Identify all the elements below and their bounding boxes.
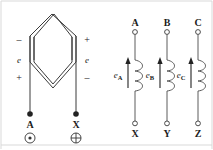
phase-a-top-terminal-label: A xyxy=(131,17,139,28)
phase-c-top-terminal-node xyxy=(196,30,201,35)
polarity-left-top: – xyxy=(16,34,23,45)
phase-b-emf-arrow-head xyxy=(157,57,162,64)
phase-b-bottom-terminal-node xyxy=(165,121,170,126)
phase-a-emf-subscript: A xyxy=(118,74,123,81)
coil-outer-conductor xyxy=(30,14,76,88)
phase-a-coil xyxy=(135,60,143,91)
phase-b-top-terminal-label: B xyxy=(164,17,171,28)
terminal-label-x: X xyxy=(72,119,80,130)
polarity-right-bottom: – xyxy=(84,72,91,83)
figure-root: – e + + e – A X A xyxy=(0,0,213,150)
polarity-left-bottom: + xyxy=(16,72,22,83)
emf-label-right: e xyxy=(85,55,89,65)
phase-winding-b: B Y eB xyxy=(146,17,175,139)
current-into-page-icon xyxy=(71,133,81,143)
phase-winding-c: C Z eC xyxy=(177,17,206,139)
phase-a-emf-label: eA xyxy=(114,70,123,81)
phase-a-bottom-terminal-label: X xyxy=(131,128,139,139)
hexagonal-coil-group: – e + + e – A X xyxy=(16,14,91,143)
phase-b-emf-subscript: B xyxy=(150,74,155,81)
phase-c-bottom-terminal-node xyxy=(196,121,201,126)
phase-c-emf-arrow-head xyxy=(188,57,193,64)
phase-b-coil xyxy=(167,60,175,91)
phase-b-bottom-terminal-label: Y xyxy=(163,128,171,139)
phase-a-bottom-terminal-node xyxy=(133,121,138,126)
terminal-dot-a xyxy=(27,111,33,117)
phase-winding-a: A X eA xyxy=(114,17,143,139)
phase-c-bottom-terminal-label: Z xyxy=(195,128,202,139)
phase-b-top-terminal-node xyxy=(165,30,170,35)
phase-b-emf-label: eB xyxy=(146,70,155,81)
phase-c-coil xyxy=(198,60,206,91)
phase-c-top-terminal-label: C xyxy=(194,17,201,28)
phase-a-top-terminal-node xyxy=(133,30,138,35)
phase-a-emf-arrow-head xyxy=(125,57,130,64)
terminal-label-a: A xyxy=(26,119,34,130)
emf-label-left: e xyxy=(17,55,21,65)
phase-c-emf-label: eC xyxy=(177,70,186,81)
figure-canvas: – e + + e – A X A xyxy=(0,0,213,150)
polarity-right-top: + xyxy=(84,34,90,45)
current-out-of-page-icon xyxy=(25,133,35,143)
terminal-dot-x xyxy=(73,111,79,117)
phase-c-emf-subscript: C xyxy=(181,74,186,81)
